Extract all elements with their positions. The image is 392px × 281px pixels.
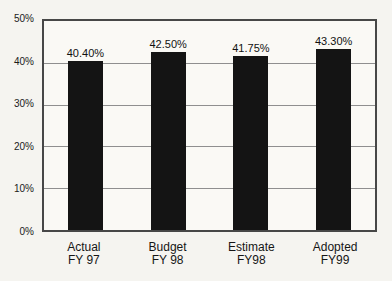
category-label: AdoptedFY99 — [293, 241, 377, 267]
y-axis-tick-label: 20% — [14, 142, 34, 152]
y-axis: 0%10%20%30%40%50% — [0, 19, 38, 232]
bar-value-label: 42.50% — [149, 38, 186, 50]
y-axis-tick-label: 30% — [14, 99, 34, 109]
category-label: ActualFY 97 — [42, 241, 126, 267]
bar-chart: 0%10%20%30%40%50% 40.40%42.50%41.75%43.3… — [0, 0, 392, 281]
y-axis-tick-label: 50% — [14, 14, 34, 24]
bar-slot: 41.75% — [210, 21, 293, 230]
category-label-line: FY 98 — [126, 254, 210, 267]
bar-value-label: 40.40% — [67, 47, 104, 59]
bar — [316, 49, 351, 230]
y-axis-tick-label: 10% — [14, 184, 34, 194]
plot-area: 40.40%42.50%41.75%43.30% — [42, 19, 377, 232]
x-axis: ActualFY 97BudgetFY 98EstimateFY98Adopte… — [42, 241, 377, 267]
category-label: BudgetFY 98 — [126, 241, 210, 267]
category-label-line: FY99 — [293, 254, 377, 267]
bar-slot: 42.50% — [127, 21, 210, 230]
category-label: EstimateFY98 — [210, 241, 294, 267]
bar-value-label: 41.75% — [232, 42, 269, 54]
category-label-line: FY 97 — [42, 254, 126, 267]
category-label-line: FY98 — [210, 254, 294, 267]
y-axis-tick-label: 40% — [14, 57, 34, 67]
bar-value-label: 43.30% — [315, 35, 352, 47]
bars-container: 40.40%42.50%41.75%43.30% — [44, 21, 375, 230]
bar-slot: 40.40% — [44, 21, 127, 230]
bar — [151, 52, 186, 230]
bar — [68, 61, 103, 230]
bar-slot: 43.30% — [292, 21, 375, 230]
bar — [233, 56, 268, 231]
y-axis-tick-label: 0% — [20, 227, 34, 237]
